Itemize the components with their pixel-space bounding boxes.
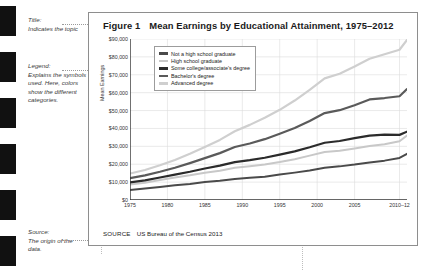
x-axis-ticks: 19751980198519901995200020052010–12	[130, 200, 407, 212]
page-edge-tab	[0, 6, 16, 36]
figure-container: Figure 1Mean Earnings by Educational Att…	[88, 12, 418, 246]
annotation-title-text: Indicates the topic	[28, 25, 78, 32]
chart-series-line	[130, 154, 407, 190]
annotation-legend-label: Legend:	[28, 62, 50, 69]
y-axis-tick-label: $90,000	[109, 36, 128, 42]
annotation-legend: Legend: Explains the symbols used. Here,…	[28, 62, 88, 105]
x-axis-tick-label: 1990	[236, 202, 248, 208]
x-axis-tick-label: 2010–12	[389, 202, 410, 208]
y-axis-tick-label: $50,000	[109, 108, 128, 114]
legend-swatch-icon	[159, 67, 168, 70]
x-axis-tick-label: 1980	[162, 202, 174, 208]
legend-item[interactable]: Bachelor's degree	[159, 72, 250, 79]
annotation-column: Title: Indicates the topic Legend: Expla…	[28, 0, 90, 274]
x-axis-tick-label: 1995	[274, 202, 286, 208]
legend-swatch-icon	[159, 82, 168, 85]
figure-source: SOURCEUS Bureau of the Census 2013	[103, 230, 222, 237]
y-axis-tick-label: $10,000	[109, 179, 128, 185]
y-axis-ticks: $0$10,000$20,000$30,000$40,000$50,000$60…	[97, 39, 128, 199]
legend-item-label: Some college/associate's degree	[171, 65, 250, 71]
chart-series-line	[130, 132, 407, 183]
source-label: SOURCE	[103, 230, 131, 237]
annotation-source-text: The origin of the data.	[28, 237, 73, 253]
chart-legend: Not a high school graduateHigh school gr…	[154, 46, 256, 91]
legend-item[interactable]: Advanced degree	[159, 80, 250, 87]
plot-area: Mean Earnings $0$10,000$20,000$30,000$40…	[97, 39, 411, 221]
y-axis-tick-label: $30,000	[109, 143, 128, 149]
leader-line-source	[62, 240, 90, 241]
legend-swatch-icon	[159, 60, 168, 63]
annotation-title-label: Title:	[28, 16, 41, 23]
legend-item-label: Advanced degree	[171, 80, 213, 86]
figure-number: Figure 1	[103, 20, 140, 31]
legend-item-label: Not a high school graduate	[171, 51, 235, 57]
page-edge-tab	[0, 190, 16, 220]
legend-item[interactable]: High school graduate	[159, 57, 250, 64]
figure-title: Figure 1Mean Earnings by Educational Att…	[103, 20, 394, 31]
y-axis-tick-label: $80,000	[109, 54, 128, 60]
x-axis-tick-label: 1975	[124, 202, 136, 208]
legend-swatch-icon	[159, 52, 168, 55]
page-edge-tab	[0, 236, 16, 266]
source-text: US Bureau of the Census 2013	[137, 230, 223, 237]
figure-title-text: Mean Earnings by Educational Attainment,…	[149, 20, 393, 31]
x-axis-tick-label: 2005	[349, 202, 361, 208]
y-axis-tick-label: $40,000	[109, 125, 128, 131]
y-axis-tick-label: $60,000	[109, 90, 128, 96]
legend-swatch-icon	[159, 75, 168, 78]
y-axis-tick-label: $70,000	[109, 72, 128, 78]
y-axis-tick-label: $20,000	[109, 161, 128, 167]
legend-item[interactable]: Some college/associate's degree	[159, 65, 250, 72]
leader-line-title	[62, 24, 90, 25]
page-edge-tab	[0, 98, 16, 128]
legend-item-label: High school graduate	[171, 58, 222, 64]
x-axis-tick-label: 1985	[199, 202, 211, 208]
annotation-source-label: Source:	[28, 228, 49, 235]
x-axis-tick-label: 2000	[311, 202, 323, 208]
page-edge-tab	[0, 144, 16, 174]
page-edge-tab	[0, 52, 16, 82]
annotation-legend-text: Explains the symbols used. Here, colors …	[28, 71, 86, 104]
legend-item-label: Bachelor's degree	[171, 73, 214, 79]
legend-item[interactable]: Not a high school graduate	[159, 50, 250, 57]
page-edge-tabs	[0, 0, 17, 274]
